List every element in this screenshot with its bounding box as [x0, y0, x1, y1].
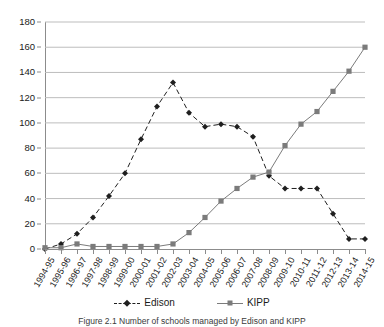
data-point-marker — [74, 231, 80, 237]
y-tick-label: 120 — [19, 93, 35, 103]
data-point-marker — [266, 169, 271, 174]
y-tick-mark — [37, 47, 41, 48]
data-series-layer — [45, 22, 365, 249]
y-tick-label: 20 — [24, 219, 35, 229]
data-point-marker — [234, 124, 240, 130]
y-tick-label: 60 — [24, 169, 35, 179]
x-tick-mark — [173, 250, 174, 254]
x-tick-mark — [77, 250, 78, 254]
data-point-marker — [74, 241, 79, 246]
y-tick-mark — [37, 22, 41, 23]
data-point-marker — [314, 185, 320, 191]
x-tick-mark — [45, 250, 46, 254]
data-point-marker — [298, 185, 304, 191]
x-tick-mark — [93, 250, 94, 254]
data-point-marker — [154, 103, 160, 109]
legend-label: Edison — [144, 298, 175, 308]
y-tick-mark — [37, 249, 41, 250]
y-tick-mark — [37, 148, 41, 149]
data-point-marker — [202, 215, 207, 220]
x-tick-mark — [189, 250, 190, 254]
x-tick-mark — [125, 250, 126, 254]
data-point-marker — [90, 214, 96, 220]
x-tick-mark — [349, 250, 350, 254]
x-tick-mark — [301, 250, 302, 254]
y-tick-mark — [37, 122, 41, 123]
data-point-marker — [346, 69, 351, 74]
legend-entry-edison[interactable]: Edison — [114, 298, 175, 308]
data-point-marker — [234, 186, 239, 191]
y-tick-mark — [37, 223, 41, 224]
legend-diamond-marker-icon — [124, 300, 130, 306]
data-point-marker — [282, 185, 288, 191]
chart-legend: EdisonKIPP — [0, 296, 384, 310]
series-edison — [42, 80, 368, 252]
x-tick-mark — [157, 250, 158, 254]
y-tick-mark — [37, 72, 41, 73]
x-tick-mark — [61, 250, 62, 254]
x-tick-mark — [365, 250, 366, 254]
x-tick-mark — [141, 250, 142, 254]
data-point-marker — [170, 241, 175, 246]
legend-entry-kipp[interactable]: KIPP — [217, 298, 270, 308]
y-tick-mark — [37, 173, 41, 174]
data-point-marker — [170, 80, 176, 86]
plot-area — [45, 22, 365, 249]
legend-swatch — [114, 299, 140, 308]
y-tick-label: 40 — [24, 194, 35, 204]
chart-figure: 020406080100120140160180 1994-951995-961… — [0, 0, 384, 327]
data-point-marker — [250, 134, 256, 140]
y-tick-label: 180 — [19, 17, 35, 27]
x-tick-mark — [109, 250, 110, 254]
legend-square-marker-icon — [227, 301, 232, 306]
x-tick-mark — [237, 250, 238, 254]
data-point-marker — [282, 143, 287, 148]
x-tick-mark — [269, 250, 270, 254]
data-point-marker — [298, 122, 303, 127]
x-tick-mark — [253, 250, 254, 254]
y-tick-label: 160 — [19, 42, 35, 52]
data-point-marker — [250, 175, 255, 180]
y-tick-label: 100 — [19, 118, 35, 128]
legend-label: KIPP — [247, 298, 270, 308]
y-tick-label: 80 — [24, 143, 35, 153]
y-tick-mark — [37, 97, 41, 98]
x-tick-mark — [205, 250, 206, 254]
y-tick-mark — [37, 198, 41, 199]
data-point-marker — [330, 211, 336, 217]
legend-swatch — [217, 299, 243, 308]
data-point-marker — [186, 110, 192, 116]
y-tick-label: 140 — [19, 68, 35, 78]
y-tick-label: 0 — [30, 244, 35, 254]
data-point-marker — [362, 236, 368, 242]
x-tick-mark — [317, 250, 318, 254]
x-tick-mark — [285, 250, 286, 254]
x-tick-mark — [221, 250, 222, 254]
x-tick-mark — [333, 250, 334, 254]
data-point-marker — [218, 198, 223, 203]
figure-caption: Figure 2.1 Number of schools managed by … — [0, 316, 384, 327]
y-axis: 020406080100120140160180 — [0, 22, 41, 249]
data-point-marker — [346, 236, 352, 242]
data-point-marker — [330, 89, 335, 94]
data-point-marker — [186, 230, 191, 235]
data-point-marker — [122, 170, 128, 176]
series-line — [45, 83, 365, 249]
data-point-marker — [218, 121, 224, 127]
data-point-marker — [314, 109, 319, 114]
data-point-marker — [138, 136, 144, 142]
data-point-marker — [362, 45, 367, 50]
series-kipp — [42, 45, 367, 251]
